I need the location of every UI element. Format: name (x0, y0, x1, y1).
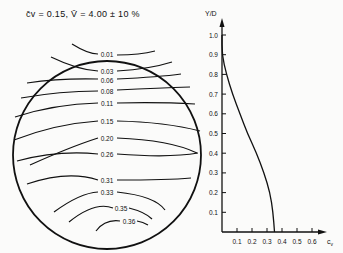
y-tick-label: 0.2 (209, 189, 218, 196)
y-tick-label: 0.7 (209, 91, 218, 98)
contour-label: 0.20 (101, 135, 114, 142)
y-axis-arrow (220, 18, 225, 27)
x-tick-label: 0.1 (232, 238, 241, 245)
contour-line (69, 206, 113, 222)
contour-line (117, 87, 190, 90)
x-tick-label: 0.3 (262, 238, 271, 245)
y-tick-label: 0.6 (209, 110, 218, 117)
contour-label: 0.33 (101, 189, 114, 196)
x-tick-label: 0.4 (277, 238, 286, 245)
contour-line (117, 153, 198, 156)
contour-line (117, 51, 155, 55)
contour-line (117, 121, 200, 131)
y-tick-label: 0.8 (209, 71, 218, 78)
y-tick-label: 0.4 (209, 150, 218, 157)
x-tick-label: 0.6 (307, 238, 316, 245)
contour-line (117, 74, 181, 79)
contour-label: 0.15 (101, 118, 114, 125)
contour-line (17, 153, 98, 161)
y-tick-label: 0.1 (209, 209, 218, 216)
contour-line (117, 178, 191, 180)
profile-plot (220, 18, 328, 235)
contour-label: 0.35 (115, 205, 128, 212)
contour-label: 0.08 (101, 88, 114, 95)
contour-label: 0.11 (101, 100, 114, 107)
x-tick-label: 0.5 (292, 238, 301, 245)
figure: 0.010.030.060.080.110.150.200.260.310.33… (0, 0, 343, 253)
contour-line (14, 121, 98, 140)
x-tick-label: 0.2 (247, 238, 256, 245)
contour-label: 0.06 (101, 77, 114, 84)
contour-label: 0.31 (101, 177, 114, 184)
y-tick-label: 0.5 (209, 130, 218, 137)
contour-label: 0.26 (101, 151, 114, 158)
contour-line (27, 79, 98, 83)
contour-label: 0.36 (123, 218, 136, 225)
x-axis-arrow (318, 230, 327, 235)
contour-line (72, 44, 98, 54)
contour-line (96, 221, 120, 231)
contour-line (27, 176, 98, 184)
y-tick-label: 1.0 (209, 32, 218, 39)
profile-curve (222, 35, 275, 232)
x-axis-label: cv (327, 238, 334, 247)
contour-label: 0.01 (101, 51, 114, 58)
y-axis-label: Y/D (205, 10, 217, 17)
contour-line (117, 103, 195, 104)
contour-line (30, 138, 98, 165)
y-tick-label: 0.9 (209, 51, 218, 58)
contour-line (137, 221, 148, 225)
contour-line (51, 57, 98, 71)
contour-label: 0.03 (101, 68, 114, 75)
contour-line (117, 138, 197, 153)
y-tick-label: 0.3 (209, 169, 218, 176)
